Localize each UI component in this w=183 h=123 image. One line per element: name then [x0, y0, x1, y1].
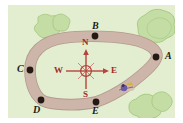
- point-dot-A[interactable]: [153, 54, 160, 61]
- compass-label-south: S: [83, 90, 88, 99]
- point-dot-B[interactable]: [92, 33, 99, 40]
- tree-bottom-right-small: [152, 92, 172, 112]
- point-label-E: E: [92, 106, 99, 116]
- point-dot-D[interactable]: [38, 97, 45, 104]
- compass-label-west: W: [54, 66, 63, 75]
- map-canvas: A B C D E N S E W: [8, 5, 175, 118]
- point-label-A: A: [165, 51, 172, 61]
- point-label-B: B: [92, 21, 99, 31]
- trail-map-figure: A B C D E N S E W: [0, 0, 183, 123]
- point-dot-C[interactable]: [27, 67, 34, 74]
- compass-label-east: E: [111, 66, 117, 75]
- point-label-C: C: [17, 64, 24, 74]
- compass-label-north: N: [82, 38, 89, 47]
- point-label-D: D: [33, 105, 40, 115]
- tree-top-left-small: [53, 14, 70, 31]
